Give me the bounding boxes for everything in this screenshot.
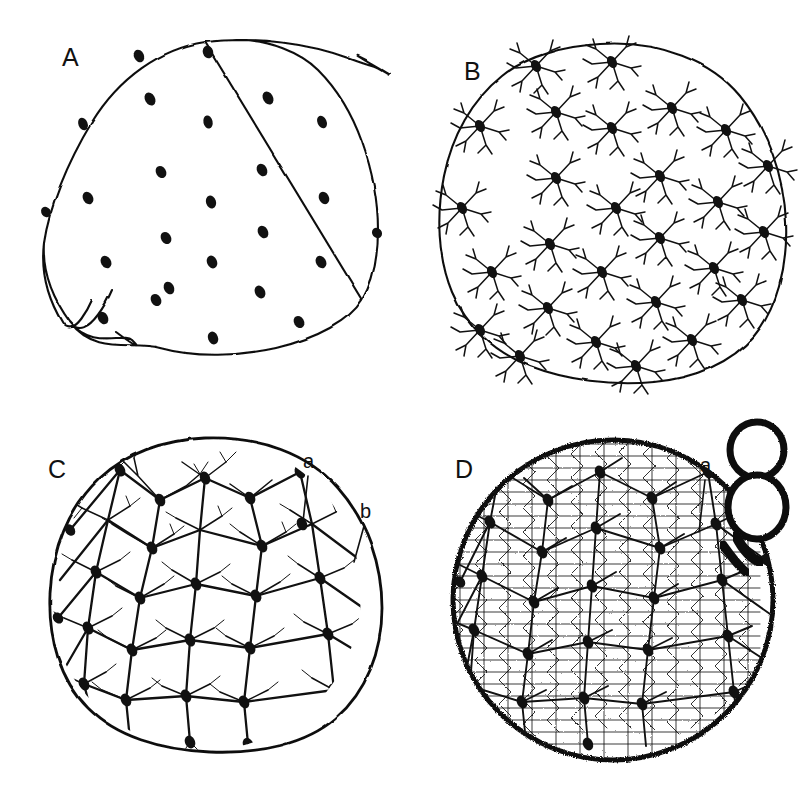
bud-upper-lumen <box>738 430 776 468</box>
panel-b-letter: B <box>464 57 481 85</box>
figure-plate: A <box>0 0 810 796</box>
plate-background <box>0 0 810 796</box>
panel-a-letter: A <box>62 43 79 71</box>
panel-c-letter: C <box>48 455 67 483</box>
panel-c-label-a: a <box>303 450 315 472</box>
panel-d-label-a: a <box>700 454 712 476</box>
panel-c-label-b: b <box>360 500 371 522</box>
panel-d-letter: D <box>455 455 474 483</box>
bud-lower-lumen <box>737 483 777 529</box>
